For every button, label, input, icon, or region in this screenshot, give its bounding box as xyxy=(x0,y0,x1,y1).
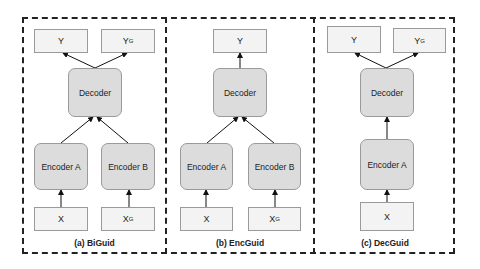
encoder-b-block: Encoder B xyxy=(248,143,301,190)
input-x-box: X xyxy=(180,207,233,231)
output-y-box: Y xyxy=(327,26,381,53)
output-y-box: Y xyxy=(213,29,267,53)
caption-biguid: (a) BiGuid xyxy=(24,238,165,248)
decoder-block: Decoder xyxy=(213,68,267,117)
input-x-box: X xyxy=(360,202,414,231)
output-yg-box: YG xyxy=(101,29,155,53)
input-x-box: X xyxy=(34,207,88,231)
input-xg-box: XG xyxy=(101,207,155,231)
diagram-canvas: Y YG Decoder Encoder A Encoder B X XG (a… xyxy=(0,0,480,269)
encoder-a-block: Encoder A xyxy=(34,143,88,190)
output-yg-box: YG xyxy=(393,28,446,53)
encoder-a-block: Encoder A xyxy=(360,139,414,190)
decoder-block: Decoder xyxy=(68,68,122,117)
encoder-a-block: Encoder A xyxy=(180,143,233,190)
encoder-b-block: Encoder B xyxy=(101,143,155,190)
caption-encguid: (b) EncGuid xyxy=(167,238,313,248)
output-y-box: Y xyxy=(34,29,88,53)
decoder-block: Decoder xyxy=(360,68,414,117)
caption-decguid: (c) DecGuid xyxy=(315,238,455,248)
input-xg-box: XG xyxy=(248,207,301,231)
